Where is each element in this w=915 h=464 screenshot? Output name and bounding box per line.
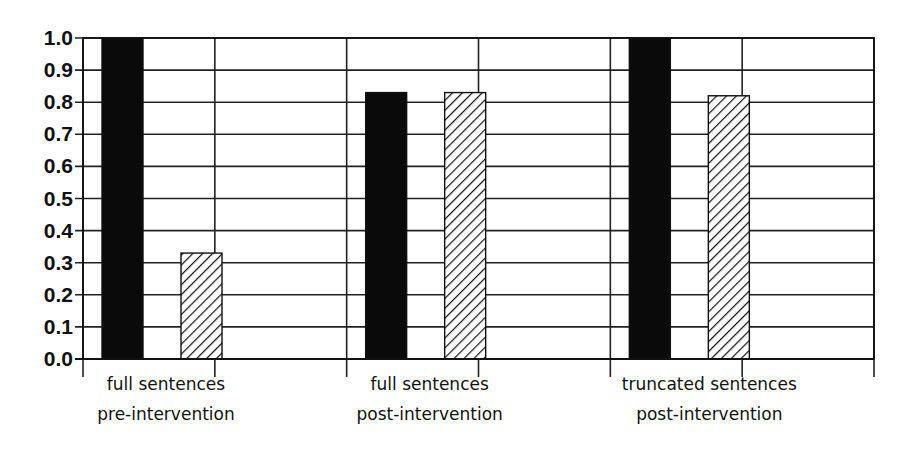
x-category-label: post-intervention bbox=[636, 404, 782, 424]
bar-hatched bbox=[708, 96, 749, 359]
y-tick-label: 0.6 bbox=[44, 154, 73, 177]
y-axis-tick-labels: 0.00.10.20.30.40.50.60.70.80.91.0 bbox=[44, 26, 74, 370]
bar-hatched bbox=[445, 93, 486, 359]
x-category-label: pre-intervention bbox=[97, 404, 234, 424]
y-tick-label: 0.9 bbox=[44, 58, 73, 81]
y-tick-label: 0.7 bbox=[44, 122, 73, 145]
y-tick-label: 0.0 bbox=[44, 347, 73, 370]
y-tick-label: 0.3 bbox=[44, 251, 73, 274]
x-category-label: truncated sentences bbox=[622, 374, 797, 394]
y-tick-label: 0.2 bbox=[44, 283, 73, 306]
y-tick-label: 0.1 bbox=[44, 315, 74, 338]
bar-chart: 0.00.10.20.30.40.50.60.70.80.91.0 full s… bbox=[0, 0, 915, 464]
bar-hatched bbox=[181, 253, 222, 359]
y-tick-label: 0.5 bbox=[44, 187, 74, 210]
y-tick-label: 1.0 bbox=[44, 26, 73, 49]
x-category-label: full sentences bbox=[371, 374, 489, 394]
x-category-label: post-intervention bbox=[357, 404, 503, 424]
y-tick-label: 0.4 bbox=[44, 219, 74, 242]
y-tick-label: 0.8 bbox=[44, 90, 74, 113]
x-axis-category-labels: full sentencespre-interventionfull sente… bbox=[97, 374, 797, 424]
bar-solid bbox=[102, 38, 143, 359]
bar-solid bbox=[366, 93, 407, 359]
bar-solid bbox=[629, 38, 670, 359]
x-category-label: full sentences bbox=[107, 374, 225, 394]
